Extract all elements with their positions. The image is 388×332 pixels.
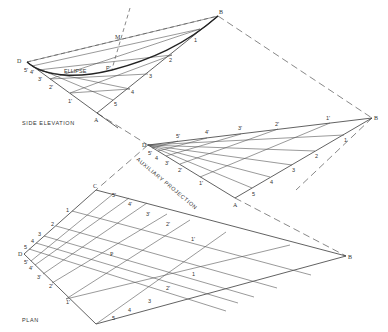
edge-label: 5' [148,150,152,156]
side-elevation-view: D A B M P' ELLIPSE 5' 4' 3' 2' 1' 5 4 3 … [17,8,223,128]
edge-label: 5' [24,259,28,265]
edge-label: 3 [292,167,295,173]
edge-label: 3' [37,274,41,280]
vertex-d-label: D [17,58,22,64]
point-m-label: M [115,34,121,40]
side-elevation-title: SIDE ELEVATION [22,120,75,126]
edge-label: 2' [49,84,53,90]
edge-label: 2' [166,285,170,291]
auxiliary-projection-view: D A B 5' 4 3' 2' 1' 5 4 3 2 1 5' 4' 3' 2… [135,115,378,211]
edge-label: 5 [114,101,117,107]
edge-label: 2 [315,153,318,159]
edge-label: 1' [191,236,195,242]
edge-label: 3' [165,160,169,166]
ellipse-label: ELLIPSE [64,68,87,74]
edge-label: 2 [51,221,54,227]
vertex-b-label: B [348,254,352,260]
edge-label: 4' [128,201,132,207]
point-p-label: P' [106,65,111,71]
vertex-b-label: B [374,115,378,121]
edge-label: 3' [238,125,242,131]
edge-label: 2' [166,221,170,227]
edge-label: 5 [112,315,115,321]
edge-label: 1' [66,299,70,305]
edge-label: 1 [194,37,197,43]
edge-label: 2' [178,167,182,173]
edge-label: 5' [24,67,28,73]
edge-label: 4' [29,265,33,271]
vertex-d-label: D [142,142,147,148]
edge-label: 5 [24,244,27,250]
edge-label: 3 [148,298,151,304]
edge-label: 1' [199,180,203,186]
edge-label: 5' [112,192,116,198]
edge-label: 1 [344,137,347,143]
edge-label: 4 [31,238,34,244]
vertex-c-label: C [93,183,97,189]
vertex-b-label: B [219,9,223,15]
edge-label: 1 [192,271,195,277]
hyperbolic-paraboloid-drawing: D A B M P' ELLIPSE 5' 4' 3' 2' 1' 5 4 3 … [0,0,388,332]
edge-label: 3' [146,211,150,217]
edge-label: 2' [49,283,53,289]
edge-label: 5' [176,133,180,139]
edge-label: 4 [270,179,273,185]
edge-label: 1' [68,98,72,104]
plan-title: PLAN [22,317,39,323]
edge-label: 2 [169,57,172,63]
edge-label: 3 [38,231,41,237]
edge-label: 3 [149,73,152,79]
vertex-a-label: A [94,117,99,123]
edge-label: 4 [155,155,158,161]
edge-label: 4 [128,307,131,313]
edge-label: 3' [38,76,42,82]
edge-label: 4' [30,69,34,75]
edge-label: 5 [252,191,255,197]
vertex-d-label: D [18,251,23,257]
edge-label: 4' [205,129,209,135]
vertex-a-label: A [233,202,238,208]
edge-label: 4 [131,89,134,95]
edge-label: 1 [66,207,69,213]
edge-label: 2' [275,121,279,127]
edge-label: 1' [326,115,330,121]
plan-view: C D B P 1 2 3 4 5 5' 4' 3' 2' 1' 5' 4' 3… [18,183,352,324]
